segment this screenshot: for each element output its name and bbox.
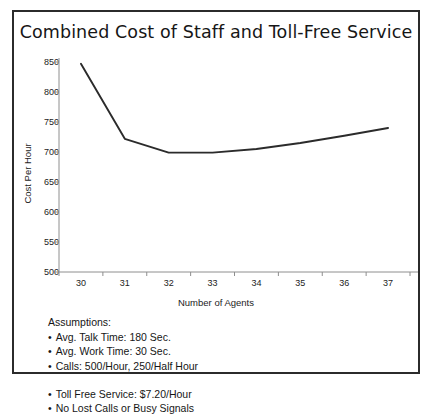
- figure-frame: Combined Cost of Staff and Toll-Free Ser…: [12, 10, 420, 374]
- chart-title: Combined Cost of Staff and Toll-Free Ser…: [14, 22, 418, 42]
- line-chart-svg: [14, 50, 422, 312]
- assumptions-left-column: Avg. Talk Time: 180 Sec.Avg. Work Time: …: [48, 330, 238, 373]
- assumption-item: Avg. Talk Time: 180 Sec.: [48, 330, 238, 344]
- assumption-item: Calls: 500/Hour, 250/Half Hour: [48, 359, 238, 373]
- data-series-line: [81, 64, 388, 153]
- chart-plot-area: Cost Per Hour Number of Agents 850800750…: [14, 50, 418, 312]
- assumption-item: Toll Free Service: $7.20/Hour: [48, 387, 228, 401]
- assumption-item: Avg. Work Time: 30 Sec.: [48, 344, 238, 358]
- axes: [55, 58, 418, 276]
- assumptions-block: Assumptions: Avg. Talk Time: 180 Sec.Avg…: [48, 315, 418, 415]
- assumptions-right-column: Toll Free Service: $7.20/HourNo Lost Cal…: [48, 373, 228, 415]
- assumption-item: No Lost Calls or Busy Signals: [48, 401, 228, 415]
- assumptions-heading: Assumptions:: [48, 315, 418, 329]
